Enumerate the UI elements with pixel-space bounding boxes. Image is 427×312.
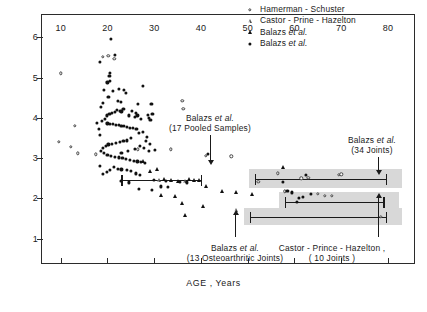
annotation-line-1: Castor - Prince - Hazelton , [279,243,386,253]
data-point-filled-circle [100,119,103,122]
x-axis-title: AGE , Years [186,278,241,288]
annotation-line-1: Balazs et al. [169,113,251,123]
data-point-filled-circle [138,187,141,190]
data-point-open-circle [73,124,76,127]
legend-item-label: Balazs et al. [260,38,308,48]
data-point-filled-triangle [180,201,184,205]
y-tick-label: 5 [33,73,38,83]
data-point-filled-circle [160,185,163,188]
data-point-open-circle [136,148,139,151]
data-point-open-circle [113,57,116,60]
y-tick-label: 6 [33,32,38,42]
data-point-filled-circle [113,111,116,114]
data-point-filled-circle [137,103,140,106]
data-point-filled-circle [149,119,152,122]
range-bar-cap [250,212,251,223]
legend-item-label: Hamerman - Schuster [260,4,345,14]
data-point-open-circle [230,154,233,157]
data-point-open-circle [181,107,184,110]
annotation-arrow-head [208,160,214,165]
data-point-filled-triangle [148,169,152,173]
legend-item: Balazs et al. [248,38,356,49]
annotation-line-2: (13 Osteoarthritic Joints) [187,253,283,263]
data-point-filled-circle [105,170,108,173]
data-point-filled-circle [96,121,99,124]
data-point-filled-triangle [155,167,159,171]
data-point-filled-circle [111,142,114,145]
x-tick [107,258,108,264]
data-point-filled-circle [178,180,181,183]
data-point-filled-triangle [234,190,238,194]
data-point-filled-circle [112,165,115,168]
data-point-filled-circle [122,107,125,110]
data-point-filled-circle [119,100,122,103]
range-bar-cap [386,212,387,223]
data-point-filled-circle [102,88,105,91]
range-bar-cap [255,174,256,185]
data-point-filled-circle [143,161,146,164]
data-point-filled-circle [125,139,128,142]
x-tick-label: 40 [196,23,206,33]
data-point-open-circle [101,55,104,58]
data-point-filled-circle [145,136,148,139]
annotation-line-2: (17 Pooled Samples) [169,123,251,133]
data-point-filled-circle [103,117,106,120]
data-point-filled-circle [104,144,107,147]
data-point-filled-circle [98,165,101,168]
data-point-filled-triangle [192,178,196,182]
range-bar [250,217,386,218]
legend-item-label: Balazs et al. [260,27,308,37]
data-point-filled-circle [106,153,109,156]
legend-item: Castor - Prine - Hazelton [248,15,356,26]
data-point-filled-triangle [169,178,173,182]
data-point-filled-triangle [159,193,163,197]
data-point-filled-circle [109,169,112,172]
range-bar-cap [201,175,202,186]
data-point-open-circle [57,140,60,143]
data-point-filled-circle [135,128,138,131]
data-point-filled-circle [139,173,142,176]
data-point-filled-circle [127,181,130,184]
data-point-filled-circle [127,114,130,117]
y-tick-label: 2 [33,193,38,203]
data-point-filled-circle [147,149,150,152]
data-point-filled-circle [134,172,137,175]
data-point-filled-circle [126,149,129,152]
data-point-filled-circle [117,156,120,159]
data-point-filled-circle [108,74,111,77]
range-bar-cap [383,197,384,208]
data-point-filled-circle [99,105,102,108]
data-point-open-circle [169,148,172,151]
data-point-filled-circle [114,141,117,144]
data-point-filled-circle [110,38,113,41]
data-point-open-circle [76,152,79,155]
data-point-filled-circle [142,146,145,149]
data-point-filled-triangle [173,194,177,198]
x-tick-label: 30 [149,23,159,33]
data-point-filled-circle [125,91,128,94]
data-point-filled-circle [141,130,144,133]
annotation-arrow-shaft [378,157,379,171]
data-point-filled-triangle [250,192,254,196]
data-point-filled-circle [97,128,100,131]
data-point-filled-circle [117,87,120,90]
legend-marker-filled-triangle [248,30,252,34]
data-point-filled-circle [129,169,132,172]
data-point-filled-circle [113,155,116,158]
x-tick [388,258,389,264]
x-tick-label: 80 [383,23,393,33]
annotation-balazs-13-osteoarthritic: Balazs et al.(13 Osteoarthritic Joints) [187,243,283,263]
data-point-filled-circle [141,84,144,87]
data-point-open-circle [181,99,184,102]
data-point-filled-triangle [197,178,201,182]
data-point-filled-circle [133,148,136,151]
data-point-open-circle [94,152,97,155]
data-point-filled-circle [116,167,119,170]
data-point-filled-circle [132,159,135,162]
data-point-open-triangle [157,178,161,182]
data-point-filled-circle [136,114,139,117]
data-point-filled-circle [120,168,123,171]
data-point-filled-circle [113,53,116,56]
data-point-filled-circle [138,132,141,135]
annotation-balazs-17-pooled: Balazs et al.(17 Pooled Samples) [169,113,251,133]
